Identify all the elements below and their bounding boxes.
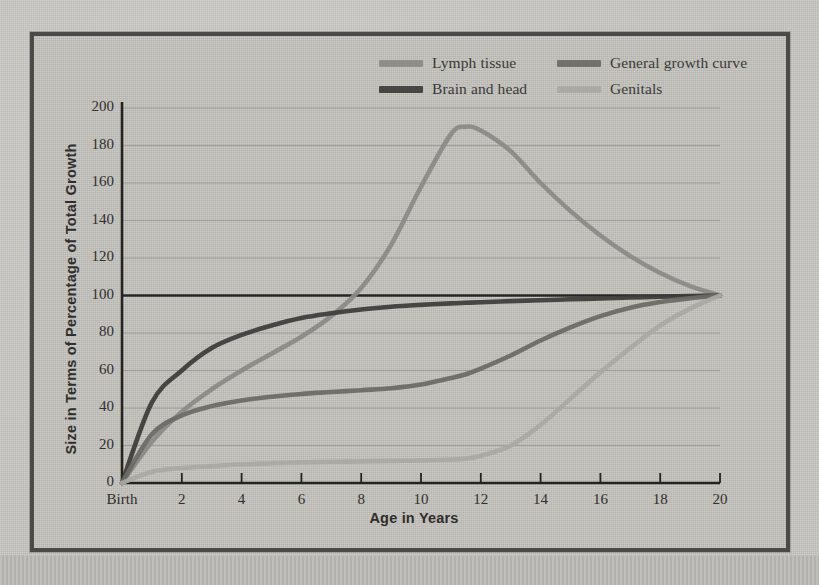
legend-row-2: Brain and head Genitals [379, 76, 779, 102]
plot-area: 020406080100120140160180200Birth24681012… [34, 36, 794, 556]
legend-item-genitals[interactable]: Genitals [557, 80, 662, 98]
ytick-label-60: 60 [74, 361, 114, 378]
legend-label-genitals: Genitals [610, 80, 662, 98]
chart-legend: Lymph tissue General growth curve Brain … [379, 50, 779, 102]
legend-row-1: Lymph tissue General growth curve [379, 50, 779, 76]
y-axis-title: Size in Terms of Percentage of Total Gro… [63, 104, 79, 494]
chart-svg [34, 36, 794, 556]
legend-swatch-brain-and-head [379, 86, 423, 93]
legend-item-lymph-tissue[interactable]: Lymph tissue [379, 54, 557, 72]
legend-label-general-growth-curve: General growth curve [610, 54, 747, 72]
ytick-label-40: 40 [74, 398, 114, 415]
ytick-label-120: 120 [74, 248, 114, 265]
legend-item-brain-and-head[interactable]: Brain and head [379, 80, 557, 98]
xtick-label-20: 20 [685, 491, 755, 508]
page-bottom-strip [0, 556, 819, 585]
legend-label-lymph-tissue: Lymph tissue [432, 54, 516, 72]
ytick-label-80: 80 [74, 323, 114, 340]
legend-swatch-general-growth-curve [557, 60, 601, 67]
growth-curves-figure: 020406080100120140160180200Birth24681012… [30, 32, 790, 552]
legend-label-brain-and-head: Brain and head [432, 80, 527, 98]
ytick-label-140: 140 [74, 211, 114, 228]
ytick-label-20: 20 [74, 436, 114, 453]
ytick-label-100: 100 [74, 286, 114, 303]
legend-item-general-growth-curve[interactable]: General growth curve [557, 54, 747, 72]
legend-swatch-lymph-tissue [379, 60, 423, 67]
ytick-label-160: 160 [74, 173, 114, 190]
ytick-label-180: 180 [74, 136, 114, 153]
ytick-label-0: 0 [74, 473, 114, 490]
ytick-label-200: 200 [74, 98, 114, 115]
x-axis-title: Age in Years [34, 510, 794, 526]
legend-swatch-genitals [557, 86, 601, 93]
